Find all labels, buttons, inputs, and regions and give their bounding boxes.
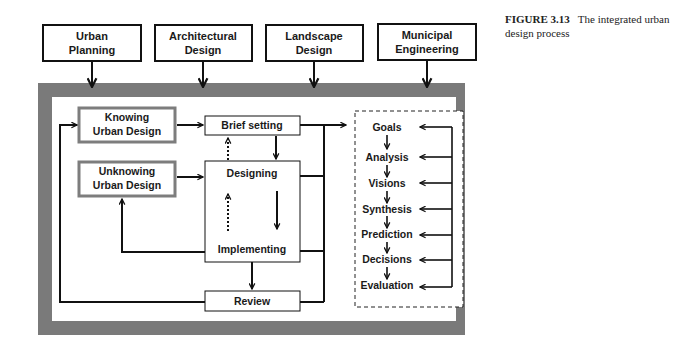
input-box-architectural-design: Architectural Design [155, 25, 252, 61]
figure-caption: FIGURE 3.13 The integrated urban design … [505, 12, 675, 40]
step-synthesis: Synthesis [362, 203, 412, 215]
input-label: Planning [69, 44, 115, 56]
box-label: Knowing [105, 111, 149, 123]
step-prediction: Prediction [361, 228, 412, 240]
review-box: Review [205, 291, 300, 311]
input-label: Landscape [285, 30, 342, 42]
input-label: Design [185, 44, 222, 56]
box-label: Urban Design [93, 179, 161, 191]
step-evaluation: Evaluation [360, 279, 413, 291]
figure-label: FIGURE 3.13 [505, 13, 570, 25]
designing-implementing-box: Designing Implementing [205, 161, 300, 262]
box-label: Designing [227, 167, 278, 179]
input-label: Municipal [402, 29, 453, 41]
input-label: Urban [76, 30, 108, 42]
step-goals: Goals [372, 121, 401, 133]
step-visions: Visions [368, 177, 405, 189]
input-label: Architectural [169, 30, 237, 42]
input-label: Engineering [395, 43, 459, 55]
box-label: Implementing [218, 243, 286, 255]
urban-design-process-diagram: Urban Planning Architectural Design Land… [0, 0, 680, 349]
input-box-municipal-engineering: Municipal Engineering [378, 24, 476, 60]
box-label: Urban Design [93, 125, 161, 137]
box-label: Unknowing [99, 165, 156, 177]
step-decisions: Decisions [362, 253, 412, 265]
box-label: Review [234, 295, 271, 307]
brief-setting-box: Brief setting [205, 116, 300, 135]
input-box-urban-planning: Urban Planning [43, 25, 141, 61]
box-label: Brief setting [221, 119, 282, 131]
input-box-landscape-design: Landscape Design [266, 25, 363, 61]
knowing-urban-design-box: Knowing Urban Design [79, 108, 175, 142]
input-label: Design [296, 44, 333, 56]
step-analysis: Analysis [365, 151, 408, 163]
unknowing-urban-design-box: Unknowing Urban Design [79, 162, 175, 196]
